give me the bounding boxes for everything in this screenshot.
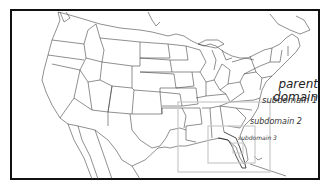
- parent-domain-label-line1: parent: [278, 78, 318, 90]
- subdomain-1-label: subdomain 1: [262, 96, 317, 105]
- subdomain-3-label: subdomain 3: [238, 135, 277, 141]
- subdomain-2-label: subdomain 2: [250, 118, 302, 126]
